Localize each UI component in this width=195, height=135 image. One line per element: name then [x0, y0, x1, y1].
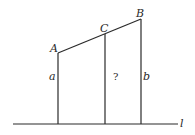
segment-label-b: b	[143, 70, 150, 83]
trapezoid-diagram: A C B a ? b l	[0, 0, 195, 135]
segment-label-unknown: ?	[113, 71, 118, 82]
segment-label-a: a	[49, 70, 56, 83]
point-label-c: C	[100, 22, 109, 35]
point-label-a: A	[49, 42, 58, 55]
baseline-label-l: l	[180, 117, 184, 130]
point-label-b: B	[135, 7, 144, 20]
